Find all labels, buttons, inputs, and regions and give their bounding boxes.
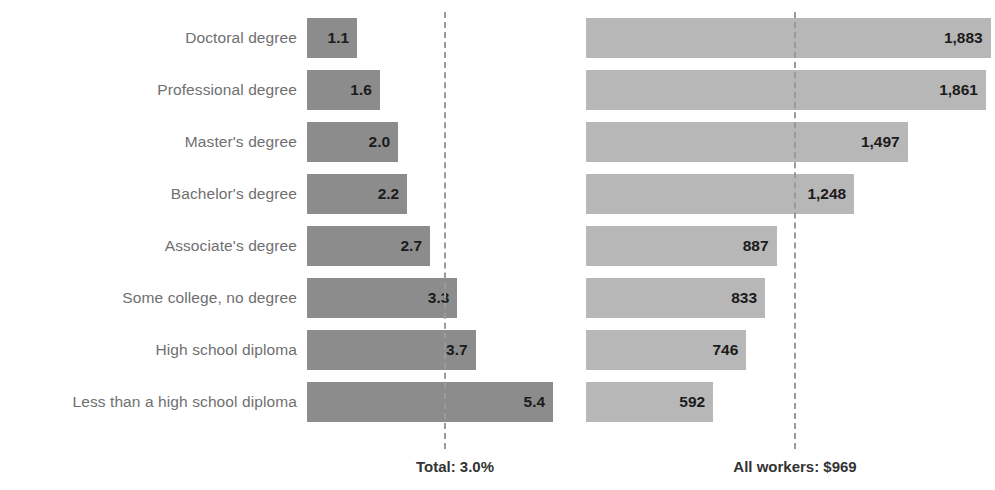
bar-row: 592 — [586, 382, 995, 422]
bar-row: 1,248 — [586, 174, 995, 214]
chart-canvas: Doctoral degreeProfessional degreeMaster… — [0, 0, 995, 490]
bar-row: 3.3 — [307, 278, 585, 318]
category-label: Doctoral degree — [0, 18, 297, 58]
footer-total-unemployment-rate: Total: 3.0% — [310, 458, 600, 475]
bar-row: 1,861 — [586, 70, 995, 110]
bar-row: 833 — [586, 278, 995, 318]
category-label: Master's degree — [0, 122, 297, 162]
bar-value-label: 1,248 — [586, 174, 846, 214]
bar-value-label: 3.3 — [307, 278, 449, 318]
bar-value-label: 833 — [586, 278, 757, 318]
bar-row: 1,883 — [586, 18, 995, 58]
panel-median-weekly-earnings: 1,8831,8611,4971,248887833746592 — [586, 0, 995, 460]
reference-line — [794, 12, 796, 449]
bar-row: 1,497 — [586, 122, 995, 162]
bar-row: 746 — [586, 330, 995, 370]
bar-row: 2.7 — [307, 226, 585, 266]
bar-value-label: 2.2 — [307, 174, 399, 214]
bar-value-label: 592 — [586, 382, 705, 422]
bar-row: 2.0 — [307, 122, 585, 162]
bar-value-label: 1.6 — [307, 70, 372, 110]
bar-row: 5.4 — [307, 382, 585, 422]
bar-value-label: 1,861 — [586, 70, 978, 110]
category-label-column: Doctoral degreeProfessional degreeMaster… — [0, 0, 297, 430]
bar-value-label: 746 — [586, 330, 738, 370]
category-label: Less than a high school diploma — [0, 382, 297, 422]
bar-row: 3.7 — [307, 330, 585, 370]
category-label: High school diploma — [0, 330, 297, 370]
bar-value-label: 5.4 — [307, 382, 545, 422]
category-label: Bachelor's degree — [0, 174, 297, 214]
category-label: Associate's degree — [0, 226, 297, 266]
footer-all-workers-earnings: All workers: $969 — [640, 458, 950, 475]
bar-value-label: 2.0 — [307, 122, 390, 162]
bar-row: 1.6 — [307, 70, 585, 110]
reference-line — [444, 12, 446, 449]
category-label: Some college, no degree — [0, 278, 297, 318]
bar-row: 2.2 — [307, 174, 585, 214]
bar-value-label: 1,497 — [586, 122, 900, 162]
category-label: Professional degree — [0, 70, 297, 110]
panel-unemployment-rate: 1.11.62.02.22.73.33.75.4 — [307, 0, 585, 460]
bar-row: 1.1 — [307, 18, 585, 58]
bar-value-label: 1,883 — [586, 18, 983, 58]
bar-value-label: 887 — [586, 226, 769, 266]
bar-value-label: 1.1 — [307, 18, 349, 58]
bar-value-label: 2.7 — [307, 226, 422, 266]
bar-row: 887 — [586, 226, 995, 266]
